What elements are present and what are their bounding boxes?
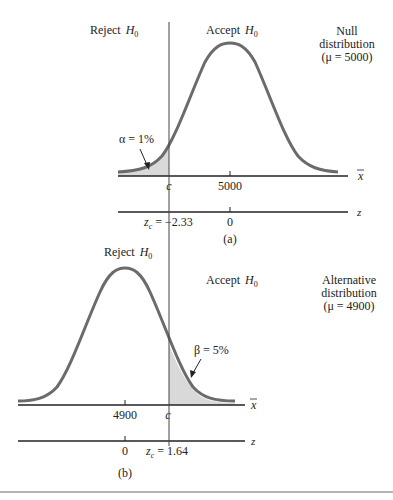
panel-b: Reject H0 Accept H0 Alternative distribu… [18,245,377,480]
reject-label-b: Reject H0 [104,245,152,261]
xbar-axis-label-a: x [357,169,364,183]
null-distribution-curve [118,43,338,172]
z-zero-label-a: 0 [227,215,233,229]
z-zero-label-b: 0 [122,444,128,458]
beta-arrow [193,359,201,373]
caption-b: (b) [118,466,132,480]
critical-value-label-b: c [165,408,171,422]
alternative-distribution-curve [18,268,235,401]
accept-label-a: Accept H0 [206,23,258,39]
null-dist-title-1: Null [336,24,358,38]
z-axis-label-b: z [250,435,256,447]
null-dist-title-2: distribution [319,37,374,51]
hypothesis-test-figure: Reject H0 Accept H0 Null distribution (μ… [0,0,393,500]
reject-label-a: Reject H0 [90,23,138,39]
mean-label-a: 5000 [218,179,242,193]
beta-label: β = 5% [194,343,229,357]
zc-label-a: zc = −2.33 [143,215,193,231]
accept-label-b: Accept H0 [206,273,258,289]
alt-dist-title-1: Alternative [322,273,376,287]
null-dist-title-3: (μ = 5000) [321,50,372,64]
zc-label-b: zc = 1.64 [145,444,188,460]
beta-arrowhead [190,370,196,378]
z-axis-label-a: z [356,206,362,218]
caption-a: (a) [223,232,236,246]
xbar-axis-label-b: x [250,398,257,412]
alt-dist-title-3: (μ = 4900) [323,299,374,313]
panel-a: Reject H0 Accept H0 Null distribution (μ… [90,23,375,246]
mean-label-b: 4900 [113,408,137,422]
alt-dist-title-2: distribution [321,286,376,300]
alpha-label: α = 1% [119,132,154,146]
alpha-arrow [140,149,147,165]
